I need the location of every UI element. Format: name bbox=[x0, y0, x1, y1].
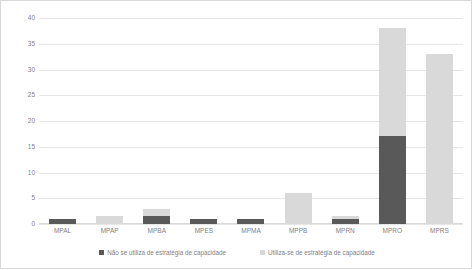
x-axis-tick-label: MPRO bbox=[369, 226, 416, 240]
bar-segment-nao-utiliza bbox=[332, 219, 359, 224]
bar-group-mpes bbox=[180, 18, 227, 224]
bar-stack bbox=[332, 216, 359, 224]
legend-label: Utiliza-se de estratégia de capacidade bbox=[268, 250, 375, 256]
legend-swatch-icon bbox=[99, 250, 104, 255]
y-axis-tick-label: 40 bbox=[9, 15, 35, 22]
bar-segment-nao-utiliza bbox=[379, 136, 406, 224]
x-axis-tick-label: MPRS bbox=[416, 226, 463, 240]
legend-entry-1[interactable]: Utiliza-se de estratégia de capacidade bbox=[260, 250, 375, 256]
bar-stack bbox=[426, 54, 453, 224]
bar-group-mppb bbox=[275, 18, 322, 224]
y-axis-tick-label: 15 bbox=[9, 144, 35, 151]
bar-stack bbox=[379, 28, 406, 224]
bar-group-mprs bbox=[416, 18, 463, 224]
y-axis-tick-label: 5 bbox=[9, 195, 35, 202]
bar-segment-nao-utiliza bbox=[143, 216, 170, 224]
y-axis-tick-label: 10 bbox=[9, 169, 35, 176]
bar-segment-utiliza bbox=[96, 216, 123, 224]
chart-container: 0510152025303540 MPALMPAPMPBAMPESMPMAMPP… bbox=[0, 0, 472, 269]
x-axis-tick-label: MPAP bbox=[86, 226, 133, 240]
bar-stack bbox=[285, 193, 312, 224]
bar-series-group bbox=[39, 18, 463, 224]
bar-segment-utiliza bbox=[379, 28, 406, 136]
x-axis-tick-label: MPMA bbox=[227, 226, 274, 240]
x-axis-tick-label: MPAL bbox=[39, 226, 86, 240]
bar-segment-utiliza bbox=[143, 209, 170, 217]
bar-segment-nao-utiliza bbox=[49, 219, 76, 224]
x-axis-tick-label: MPPB bbox=[275, 226, 322, 240]
bar-group-mpba bbox=[133, 18, 180, 224]
bar-stack bbox=[237, 219, 264, 224]
y-axis-tick-label: 35 bbox=[9, 41, 35, 48]
x-axis: MPALMPAPMPBAMPESMPMAMPPBMPRNMPROMPRS bbox=[39, 226, 463, 240]
bar-group-mprn bbox=[322, 18, 369, 224]
bar-stack bbox=[143, 209, 170, 224]
bar-stack bbox=[49, 219, 76, 224]
legend-swatch-icon bbox=[260, 250, 265, 255]
bar-group-mpma bbox=[227, 18, 274, 224]
bar-segment-utiliza bbox=[285, 193, 312, 224]
gridline bbox=[39, 224, 463, 225]
y-axis-tick-label: 20 bbox=[9, 118, 35, 125]
y-axis-tick-label: 0 bbox=[9, 221, 35, 228]
bar-segment-nao-utiliza bbox=[237, 219, 264, 224]
bar-segment-nao-utiliza bbox=[190, 219, 217, 224]
legend-entry-0[interactable]: Não se utiliza de estratégia de capacida… bbox=[99, 250, 226, 256]
bar-group-mpap bbox=[86, 18, 133, 224]
y-axis-tick-label: 30 bbox=[9, 66, 35, 73]
x-axis-tick-label: MPRN bbox=[322, 226, 369, 240]
x-axis-tick-label: MPES bbox=[180, 226, 227, 240]
bar-group-mpal bbox=[39, 18, 86, 224]
y-axis-tick-label: 25 bbox=[9, 92, 35, 99]
bar-stack bbox=[96, 216, 123, 224]
chart-legend: Não se utiliza de estratégia de capacida… bbox=[1, 246, 473, 260]
x-axis-tick-label: MPBA bbox=[133, 226, 180, 240]
legend-label: Não se utiliza de estratégia de capacida… bbox=[107, 250, 226, 256]
bar-group-mpro bbox=[369, 18, 416, 224]
bar-stack bbox=[190, 219, 217, 224]
bar-segment-utiliza bbox=[426, 54, 453, 224]
